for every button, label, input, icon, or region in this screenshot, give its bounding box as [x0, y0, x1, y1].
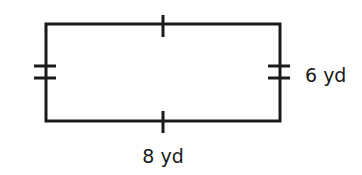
bottom-side-length-label: 8 yd: [142, 145, 183, 167]
right-side-length-label: 6 yd: [305, 64, 346, 86]
rectangle-diagram: 6 yd 8 yd: [0, 0, 362, 175]
rectangle-outline: [46, 24, 280, 121]
